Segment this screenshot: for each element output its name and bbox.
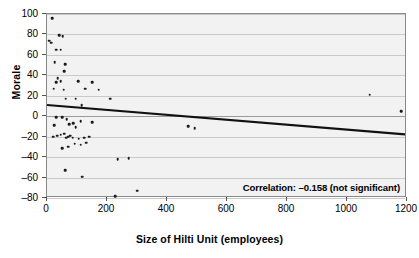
x-tick-mark-200 — [106, 197, 107, 201]
y-tick-label--60: –60 — [4, 171, 38, 182]
x-tick-mark-400 — [166, 197, 167, 201]
y-tick-label-40: 40 — [4, 69, 38, 80]
y-tick-label--20: –20 — [4, 130, 38, 141]
y-tick-label-100: 100 — [4, 8, 38, 19]
x-tick-label-0: 0 — [26, 203, 66, 214]
x-axis-title: Size of Hilti Unit (employees) — [0, 233, 419, 245]
x-tick-label-1200: 1200 — [386, 203, 419, 214]
x-tick-label-600: 600 — [206, 203, 246, 214]
y-tick-label--40: –40 — [4, 151, 38, 162]
correlation-annotation: Correlation: –0.158 (not significant) — [240, 181, 403, 194]
y-tick-label-60: 60 — [4, 48, 38, 59]
scatter-chart: Morale –80–60–40–20020406080100 Correlat… — [0, 0, 419, 258]
x-tick-mark-600 — [226, 197, 227, 201]
y-tick-label-20: 20 — [4, 89, 38, 100]
x-tick-mark-800 — [286, 197, 287, 201]
x-tick-mark-1200 — [406, 197, 407, 201]
x-tick-label-400: 400 — [146, 203, 186, 214]
y-tick-label--80: –80 — [4, 192, 38, 203]
x-tick-label-200: 200 — [86, 203, 126, 214]
x-tick-label-800: 800 — [266, 203, 306, 214]
regression-line — [47, 14, 405, 196]
plot-area: Correlation: –0.158 (not significant) — [46, 13, 406, 197]
y-tick-label-0: 0 — [4, 110, 38, 121]
x-tick-label-1000: 1000 — [326, 203, 366, 214]
y-tick-label-80: 80 — [4, 28, 38, 39]
x-tick-mark-0 — [46, 197, 47, 201]
x-tick-mark-1000 — [346, 197, 347, 201]
